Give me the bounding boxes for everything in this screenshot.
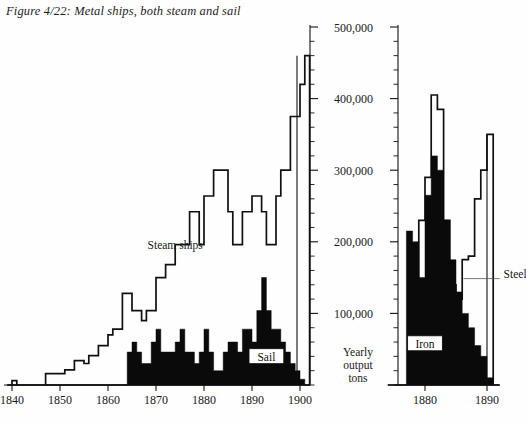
y-tick-label: 300,000 bbox=[334, 164, 373, 178]
y-axis-caption-line: tons bbox=[348, 372, 368, 384]
x-tick-label: 1890 bbox=[475, 393, 499, 407]
sail-label: Sail bbox=[257, 351, 275, 363]
iron-label: Iron bbox=[415, 338, 434, 350]
y-axis-caption-line: output bbox=[343, 359, 373, 372]
y-axis-caption-line: Yearly bbox=[343, 346, 373, 359]
steam-ships-label: Steam ships bbox=[148, 239, 204, 252]
chart-canvas: 100,000200,000300,000400,000500,000Yearl… bbox=[0, 0, 526, 424]
x-tick-label: 1860 bbox=[96, 393, 120, 407]
y-tick-label: 400,000 bbox=[334, 92, 373, 106]
x-tick-label: 1870 bbox=[144, 393, 168, 407]
x-tick-label: 1890 bbox=[240, 393, 264, 407]
y-tick-label: 100,000 bbox=[334, 307, 373, 321]
figure-root: Figure 4/22: Metal ships, both steam and… bbox=[0, 0, 526, 424]
series-iron bbox=[388, 156, 500, 385]
panel-ships bbox=[7, 56, 309, 385]
y-tick-label: 500,000 bbox=[334, 21, 373, 35]
x-tick-label: 1880 bbox=[413, 393, 437, 407]
panel-ships-axes: 100,000200,000300,000400,000500,000Yearl… bbox=[0, 21, 373, 408]
series-sail bbox=[7, 278, 309, 385]
x-tick-label: 1850 bbox=[48, 393, 72, 407]
y-tick-label: 200,000 bbox=[334, 235, 373, 249]
x-tick-label: 1880 bbox=[192, 393, 216, 407]
steel-label: Steel bbox=[504, 268, 526, 280]
panel-metal-output bbox=[388, 95, 500, 385]
x-tick-label: 1900 bbox=[288, 393, 312, 407]
x-tick-label: 1840 bbox=[0, 393, 24, 407]
